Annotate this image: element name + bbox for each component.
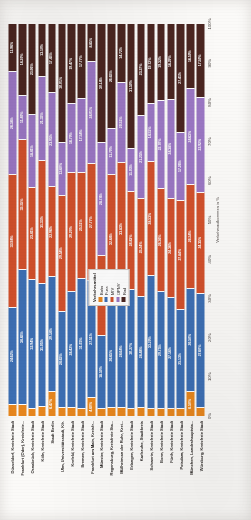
- bar-segment-miv[interactable]: 24.35%: [196, 192, 204, 293]
- bar-segment-opnv[interactable]: 17.26%: [176, 132, 184, 200]
- bar-segment-opnv[interactable]: 13.60%: [58, 142, 66, 195]
- bar-segment-rad[interactable]: 30.14%: [97, 24, 105, 142]
- bar-segment-miv[interactable]: 25.51%: [77, 172, 85, 279]
- bar-segment-rad[interactable]: 23.06%: [28, 24, 36, 114]
- bar-segment-rad[interactable]: 11.96%: [8, 24, 16, 71]
- bar-segment-rad[interactable]: 18.20%: [18, 24, 26, 95]
- table-row[interactable]: 31.05%31.33%21.33%13.10%: [38, 24, 46, 416]
- bar-segment-opnv[interactable]: 23.95%: [48, 92, 56, 186]
- legend-item[interactable]: Bahn: [98, 273, 103, 302]
- bar-segment-opnv[interactable]: 24.63%: [186, 88, 194, 184]
- bar-segment-opnv[interactable]: 11.03%: [127, 148, 135, 191]
- bar-segment-bahn[interactable]: [38, 406, 46, 416]
- bar-segment-bahn[interactable]: [28, 408, 36, 416]
- bar-segment-fuss[interactable]: 29.75%: [157, 291, 165, 407]
- bar-segment-bahn[interactable]: [107, 407, 115, 416]
- bar-segment-rad[interactable]: 26.65%: [107, 24, 115, 128]
- table-row[interactable]: 28.48%25.24%21.25%23.27%: [137, 24, 145, 416]
- bar-segment-opnv[interactable]: 14.51%: [147, 103, 155, 161]
- bar-segment-opnv[interactable]: 24.01%: [87, 61, 95, 162]
- bar-segment-opnv[interactable]: 26.38%: [8, 71, 16, 174]
- bar-segment-opnv[interactable]: 17.54%: [77, 98, 85, 171]
- bar-segment-bahn[interactable]: [77, 408, 85, 416]
- legend-item[interactable]: ÖPNV: [115, 273, 120, 302]
- bar-segment-opnv[interactable]: 11.70%: [107, 128, 115, 174]
- bar-segment-rad[interactable]: 19.72%: [147, 24, 155, 103]
- legend-item[interactable]: Fuss: [103, 273, 108, 302]
- bar-segment-miv[interactable]: 25.24%: [137, 198, 145, 297]
- bar-segment-rad[interactable]: 14.72%: [117, 24, 125, 82]
- bar-segment-miv[interactable]: 29.29%: [67, 172, 75, 291]
- table-row[interactable]: 27.18%24.38%24.38%18.29%: [167, 24, 175, 416]
- table-row[interactable]: 31.03%25.51%17.54%17.77%: [77, 24, 85, 416]
- bar-segment-bahn[interactable]: [67, 407, 75, 416]
- bar-segment-fuss[interactable]: 24.63%: [58, 311, 66, 407]
- table-row[interactable]: 6.50%26.50%26.54%24.63%16.50%: [186, 24, 194, 416]
- bar-segment-opnv[interactable]: 18.41%: [28, 115, 36, 187]
- table-row[interactable]: 30.27%24.83%11.03%31.50%: [127, 24, 135, 416]
- bar-segment-miv[interactable]: 22.96%: [48, 186, 56, 276]
- bar-segment-miv[interactable]: 24.38%: [167, 198, 175, 297]
- bar-segment-fuss[interactable]: 25.13%: [176, 309, 184, 408]
- table-row[interactable]: 18.50%20.46%28.74%30.14%: [97, 24, 105, 416]
- table-row[interactable]: 26.65%32.84%11.70%26.65%: [107, 24, 115, 416]
- bar-segment-fuss[interactable]: 29.14%: [48, 276, 56, 390]
- bar-segment-opnv[interactable]: 11.40%: [18, 95, 26, 139]
- bar-segment-fuss[interactable]: 26.50%: [186, 288, 194, 391]
- bar-segment-rad[interactable]: 18.29%: [167, 24, 175, 99]
- table-row[interactable]: 29.75%26.36%22.70%19.32%: [157, 24, 165, 416]
- table-row[interactable]: 4.60%27.51%27.77%24.01%8.85%: [87, 24, 95, 416]
- bar-segment-rad[interactable]: 16.50%: [186, 24, 194, 88]
- bar-segment-rad[interactable]: 27.41%: [176, 24, 184, 132]
- bar-segment-rad[interactable]: 30.01%: [58, 24, 66, 142]
- bar-segment-bahn[interactable]: [196, 407, 204, 416]
- bar-segment-rad[interactable]: 19.47%: [67, 24, 75, 103]
- bar-segment-bahn[interactable]: 4.60%: [87, 397, 95, 416]
- bar-segment-opnv[interactable]: 28.74%: [97, 142, 105, 255]
- bar-segment-opnv[interactable]: 22.92%: [196, 97, 204, 192]
- bar-segment-bahn[interactable]: [18, 404, 26, 416]
- legend-item[interactable]: MIV: [109, 273, 114, 302]
- bar-segment-fuss[interactable]: 27.18%: [167, 297, 175, 408]
- table-row[interactable]: 27.60%24.35%22.92%17.50%: [196, 24, 204, 416]
- table-row[interactable]: 24.62%33.94%26.38%11.96%: [8, 24, 16, 416]
- bar-segment-fuss[interactable]: 28.64%: [117, 295, 125, 407]
- bar-segment-miv[interactable]: 29.54%: [58, 195, 66, 311]
- table-row[interactable]: 6.47%29.14%22.96%23.95%17.45%: [48, 24, 56, 416]
- bar-segment-rad[interactable]: 17.77%: [77, 24, 85, 98]
- bar-segment-rad[interactable]: 17.50%: [196, 24, 204, 97]
- bar-segment-bahn[interactable]: 6.47%: [48, 391, 56, 416]
- bar-segment-opnv[interactable]: 20.51%: [117, 82, 125, 162]
- bar-segment-miv[interactable]: 23.41%: [28, 187, 36, 279]
- bar-segment-miv[interactable]: 27.84%: [176, 200, 184, 309]
- bar-segment-bahn[interactable]: [147, 408, 155, 416]
- table-row[interactable]: 32.94%23.41%18.41%23.06%: [28, 24, 36, 416]
- bar-segment-bahn[interactable]: [127, 408, 135, 416]
- legend-item[interactable]: Rad: [121, 273, 126, 302]
- bar-segment-bahn[interactable]: [58, 407, 66, 416]
- bar-segment-miv[interactable]: 26.36%: [157, 188, 165, 291]
- bar-segment-fuss[interactable]: 31.05%: [38, 283, 46, 405]
- table-row[interactable]: 24.63%29.54%13.60%30.01%: [58, 24, 66, 416]
- bar-segment-opnv[interactable]: 16.79%: [67, 103, 75, 171]
- bar-segment-bahn[interactable]: 6.50%: [186, 391, 194, 416]
- bar-segment-miv[interactable]: 28.53%: [147, 161, 155, 275]
- bar-segment-fuss[interactable]: 28.48%: [137, 296, 145, 407]
- bar-segment-fuss[interactable]: 28.42%: [67, 291, 75, 407]
- bar-segment-fuss[interactable]: 27.60%: [196, 293, 204, 408]
- bar-segment-bahn[interactable]: [157, 408, 165, 416]
- table-row[interactable]: 33.20%28.53%14.51%19.72%: [147, 24, 155, 416]
- bar-segment-miv[interactable]: 31.33%: [38, 160, 46, 284]
- bar-segment-rad[interactable]: 17.45%: [48, 24, 56, 92]
- bar-segment-fuss[interactable]: 30.27%: [127, 289, 135, 408]
- bar-segment-miv[interactable]: 33.55%: [18, 139, 26, 269]
- bar-segment-miv[interactable]: 27.77%: [87, 163, 95, 280]
- bar-segment-opnv[interactable]: 22.70%: [157, 100, 165, 189]
- bar-segment-bahn[interactable]: [117, 407, 125, 416]
- bar-segment-bahn[interactable]: [137, 407, 145, 416]
- bar-segment-fuss[interactable]: 31.03%: [77, 278, 85, 408]
- bar-segment-bahn[interactable]: [176, 408, 184, 416]
- bar-segment-rad[interactable]: 13.10%: [38, 24, 46, 76]
- bar-segment-opnv[interactable]: 21.25%: [137, 115, 145, 198]
- bar-segment-fuss[interactable]: 32.94%: [28, 279, 36, 408]
